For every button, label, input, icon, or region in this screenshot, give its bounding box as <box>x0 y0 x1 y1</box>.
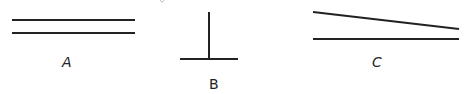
figure-a-lines <box>12 20 135 33</box>
clipped-mark <box>160 0 164 2</box>
figure-b-label: B <box>209 77 219 91</box>
figure-c-lines <box>313 12 459 39</box>
figure-b-lines <box>180 12 238 59</box>
line-diagram <box>0 0 464 94</box>
figure-a-label: A <box>62 55 72 69</box>
figure-c-label: C <box>372 55 382 69</box>
figure-c-line-1 <box>313 12 459 29</box>
